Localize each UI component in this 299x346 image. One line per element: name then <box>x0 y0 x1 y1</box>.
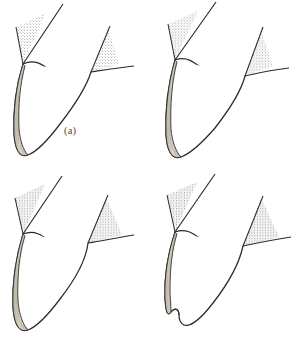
panel-c-drawing <box>0 173 149 346</box>
right-stipple-cone-d <box>243 196 291 246</box>
right-stipple-cone-a <box>91 26 134 72</box>
ventral-hook-notch-d <box>171 309 179 315</box>
body-outline-c <box>13 232 88 330</box>
panel-d-drawing <box>149 173 298 346</box>
left-stipple-cone-c <box>15 176 62 234</box>
figure-panel-c: (c) <box>0 173 149 346</box>
left-stipple-cone-d <box>167 174 215 232</box>
panel-label-a: (a) <box>64 125 76 136</box>
figure-panel-a: (a) <box>0 0 149 173</box>
left-stipple-cone-a <box>16 4 63 64</box>
right-stipple-cone-c <box>88 195 134 243</box>
body-outline-b <box>166 59 245 158</box>
right-stipple-cone-b <box>245 27 289 76</box>
left-stipple-cone-b <box>168 2 216 60</box>
figure-panel-d: (d) <box>149 173 298 346</box>
body-outline-a <box>14 62 91 156</box>
panel-b-drawing <box>149 0 298 173</box>
body-outline-d <box>165 231 243 326</box>
panel-a-drawing <box>0 0 149 173</box>
figure-panel-b: (b) <box>149 0 298 173</box>
figure-plate: (a) <box>0 0 299 346</box>
